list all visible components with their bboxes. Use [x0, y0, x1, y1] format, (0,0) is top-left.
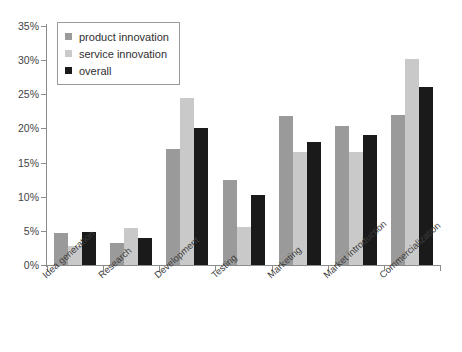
y-axis-tick-label-text: 10%	[3, 192, 39, 202]
y-axis-tick-label: 5%	[0, 226, 39, 236]
y-axis-tick-label: 0%	[0, 260, 39, 270]
bar	[307, 142, 321, 265]
y-axis-tick-label: 30%	[0, 55, 39, 65]
bar	[251, 195, 265, 265]
y-axis-tick-label-text: 35%	[3, 21, 39, 31]
y-axis-tick-label-text: 15%	[3, 158, 39, 168]
chart-legend: product innovationservice innovationover…	[57, 22, 180, 85]
legend-item: overall	[65, 62, 169, 79]
y-axis-tick-label-text: 0%	[3, 260, 39, 270]
y-axis-tick-label-text: 25%	[3, 89, 39, 99]
bar	[138, 238, 152, 265]
bar	[279, 116, 293, 265]
y-axis-tick-label: 35%	[0, 21, 39, 31]
y-axis-tick-label-text: 5%	[3, 226, 39, 236]
bar	[391, 115, 405, 265]
legend-swatch-icon	[65, 50, 72, 57]
y-axis-tick-label: 15%	[0, 158, 39, 168]
legend-item-label: service innovation	[79, 48, 167, 60]
y-axis-tick-label: 25%	[0, 89, 39, 99]
legend-item: service innovation	[65, 45, 169, 62]
bar	[405, 59, 419, 265]
legend-item-label: product innovation	[79, 31, 169, 43]
legend-swatch-icon	[65, 67, 72, 74]
y-axis-tick-label-text: 30%	[3, 55, 39, 65]
y-axis-tick-label-text: 20%	[3, 123, 39, 133]
legend-swatch-icon	[65, 33, 72, 40]
legend-item-label: overall	[79, 65, 111, 77]
y-axis-tick-label: 10%	[0, 192, 39, 202]
bar-chart: 0%5%10%15%20%25%30%35% Idea generationRe…	[0, 0, 462, 352]
y-axis-tick-label: 20%	[0, 123, 39, 133]
bar	[335, 126, 349, 265]
legend-item: product innovation	[65, 28, 169, 45]
x-axis-tick	[440, 266, 441, 271]
